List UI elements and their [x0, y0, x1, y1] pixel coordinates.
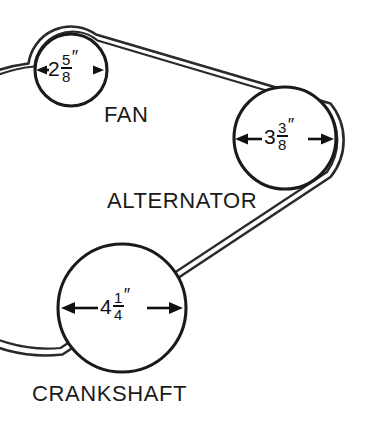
dimension-label-alternator: 3 3 8 ″ [264, 120, 294, 153]
dimension-fraction-crankshaft: 1 4 [113, 290, 124, 323]
dimension-numerator-alternator: 3 [277, 120, 287, 135]
pulley-label-fan: FAN [104, 104, 149, 126]
dimension-fraction-fan: 5 8 [61, 52, 72, 85]
dimension-denominator-alternator: 8 [277, 137, 287, 152]
dimension-whole-crankshaft: 4 [100, 296, 112, 317]
pulley-label-crankshaft: CRANKSHAFT [32, 383, 187, 405]
dimension-label-crankshaft: 4 1 4 ″ [100, 290, 130, 323]
dimension-numerator-fan: 5 [61, 52, 71, 67]
dimension-fraction-alternator: 3 8 [277, 120, 288, 153]
belt-drive-diagram: FAN ALTERNATOR CRANKSHAFT 2 5 8 ″ 3 3 8 … [0, 0, 368, 426]
dimension-label-fan: 2 5 8 ″ [48, 52, 78, 85]
dimension-denominator-fan: 8 [61, 69, 71, 84]
inch-mark-fan: ″ [72, 48, 78, 66]
dimension-whole-alternator: 3 [264, 126, 276, 147]
dimension-denominator-crankshaft: 4 [113, 307, 123, 322]
inch-mark-alternator: ″ [288, 116, 294, 134]
inch-mark-crankshaft: ″ [124, 286, 130, 304]
pulley-label-alternator: ALTERNATOR [107, 190, 257, 212]
dimension-whole-fan: 2 [48, 58, 60, 79]
dimension-numerator-crankshaft: 1 [113, 290, 123, 305]
